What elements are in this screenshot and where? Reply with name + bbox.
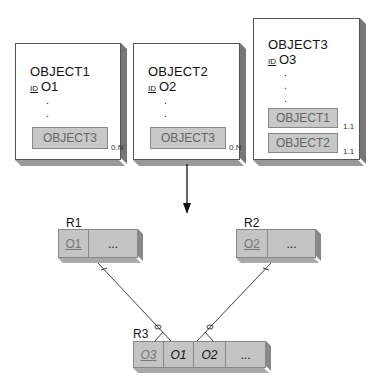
table-label-r2: R2 bbox=[244, 216, 259, 230]
fk-cell-o2: O2 bbox=[194, 342, 226, 367]
pk-cell: O2 bbox=[237, 230, 268, 257]
table-r1: O1 ... bbox=[58, 229, 138, 258]
table-r3: O3 O1 O2 ... bbox=[133, 341, 266, 368]
crow-foot-icon bbox=[205, 332, 213, 341]
table-label-r1: R1 bbox=[66, 216, 81, 230]
pk-cell: O3 bbox=[134, 342, 164, 367]
ellipsis-cell: ... bbox=[268, 230, 315, 257]
pk-cell: O1 bbox=[59, 230, 89, 257]
ellipsis-cell: ... bbox=[226, 342, 265, 367]
ellipsis-cell: ... bbox=[89, 230, 137, 257]
fk-cell-o1: O1 bbox=[164, 342, 194, 367]
crow-foot-icon bbox=[155, 332, 163, 341]
table-label-r3: R3 bbox=[133, 327, 148, 341]
table-r2: O2 ... bbox=[236, 229, 316, 258]
arrow-down-icon bbox=[183, 203, 191, 214]
connector-lines bbox=[0, 0, 376, 387]
